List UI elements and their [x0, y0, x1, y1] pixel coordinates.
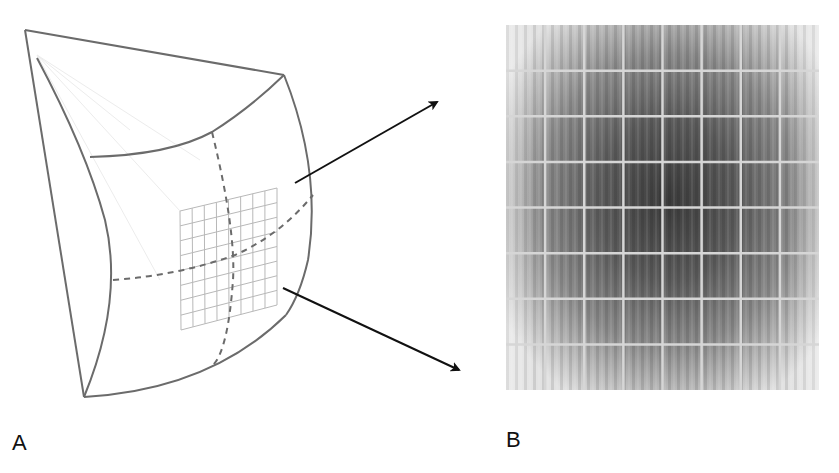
flatfield-tiles: [506, 25, 819, 390]
panel-label-b: B: [506, 429, 521, 451]
figure: A B: [0, 0, 839, 473]
upper-arrow: [295, 102, 437, 183]
panel-b-flatfield-image: [506, 25, 819, 390]
lower-arrow: [283, 288, 459, 370]
arrows: [283, 102, 459, 370]
faint-projection-rays: [37, 55, 200, 280]
curved-surface-outline: [25, 30, 312, 397]
panel-label-a: A: [12, 432, 27, 454]
